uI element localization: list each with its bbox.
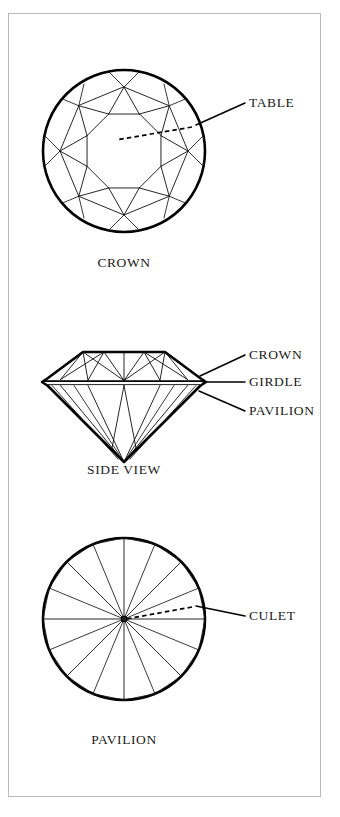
- culet-dashed-line: [126, 607, 192, 619]
- side-view: SIDE VIEW: [42, 352, 206, 477]
- crown-table-octagon: [87, 114, 161, 188]
- callout-crown: CROWN: [200, 347, 302, 376]
- table-label: TABLE: [249, 95, 294, 110]
- pavilion-caption: PAVILION: [91, 732, 157, 747]
- callout-girdle: GIRDLE: [203, 374, 302, 389]
- table-leader-line: [196, 103, 245, 125]
- side-view-caption: SIDE VIEW: [87, 462, 161, 477]
- crown-view: CROWN: [43, 70, 205, 270]
- crown-girdle-outline: [43, 70, 205, 232]
- pavilion-label: PAVILION: [249, 403, 315, 418]
- side-crown-facets: [61, 352, 188, 381]
- crown-label: CROWN: [249, 347, 302, 362]
- pavilion-leader-line: [199, 391, 245, 411]
- girdle-label: GIRDLE: [249, 374, 302, 389]
- crown-leader-line: [200, 355, 245, 376]
- culet-label: CULET: [249, 608, 296, 623]
- side-pavilion-facets: [52, 386, 196, 463]
- callout-pavilion: PAVILION: [199, 391, 315, 418]
- crown-star-facets: [60, 87, 188, 215]
- diamond-anatomy-diagram: CROWN TABLE: [0, 0, 340, 817]
- figure-page: CROWN TABLE: [0, 0, 340, 817]
- crown-caption: CROWN: [97, 255, 150, 270]
- crown-upper-girdle-facets: [45, 72, 204, 231]
- pavilion-view: PAVILION: [43, 538, 205, 747]
- callout-culet: CULET: [126, 606, 296, 623]
